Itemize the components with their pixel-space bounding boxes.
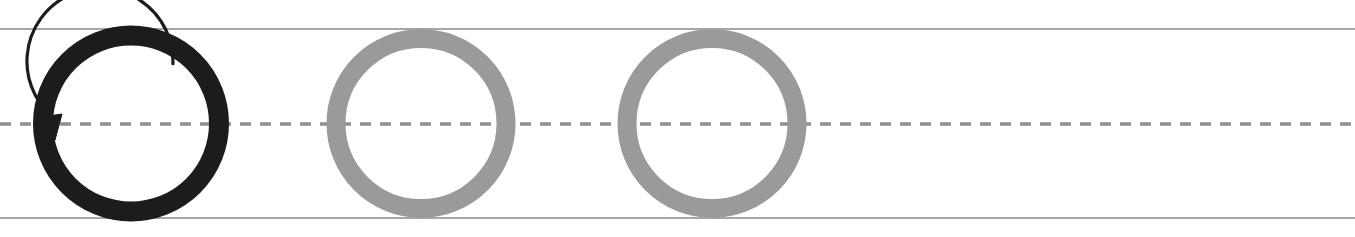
trace-letter-o-1-ring — [336, 39, 506, 209]
handwriting-tracing-row — [0, 0, 1355, 237]
trace-letter-o-2 — [627, 39, 797, 209]
stroke-direction-arrow — [27, 0, 173, 140]
blank-practice-area[interactable] — [830, 29, 1355, 218]
model-letter-o-ring — [43, 36, 219, 212]
trace-letter-o-2-ring — [627, 39, 797, 209]
model-letter-o — [27, 0, 219, 212]
trace-letter-o-1 — [336, 39, 506, 209]
